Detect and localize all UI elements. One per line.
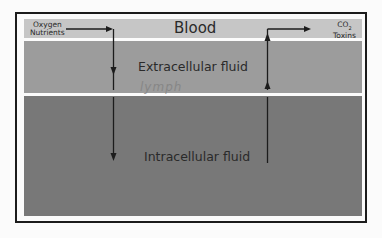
arrowhead-down-extracellular: [111, 67, 117, 75]
flow-arrows: [0, 0, 382, 238]
arrowhead-right-input: [106, 26, 113, 32]
arrowhead-up-blood: [265, 33, 271, 41]
arrowhead-right-output: [304, 26, 311, 32]
arrowhead-up-extracellular: [265, 81, 271, 89]
arrowhead-down-intracellular: [111, 153, 117, 161]
